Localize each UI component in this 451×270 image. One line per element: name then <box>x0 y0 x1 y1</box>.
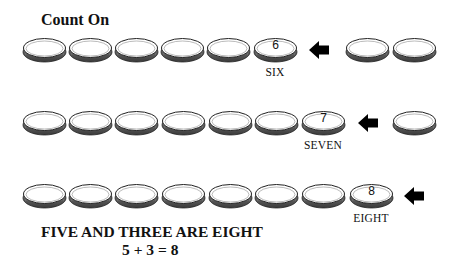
number-word-label: EIGHT <box>341 212 401 224</box>
coin-icon <box>68 183 113 209</box>
arrow-left-icon <box>309 41 329 59</box>
page-title: Count On <box>41 11 109 29</box>
count-row-1: 6 <box>0 37 451 67</box>
coin-icon <box>206 37 251 63</box>
count-row-3: 8 <box>0 183 451 213</box>
coin-icon <box>68 110 113 136</box>
coin-icon <box>345 37 390 63</box>
coin-number: 7 <box>301 111 346 125</box>
number-word-label: SIX <box>245 66 305 78</box>
highlighted-coin: 6 <box>253 37 298 63</box>
coin-icon <box>392 37 437 63</box>
coin-icon <box>22 183 67 209</box>
coin-icon <box>161 183 206 209</box>
coin-icon <box>208 110 253 136</box>
coin-number: 8 <box>349 184 394 198</box>
coin-icon <box>114 110 159 136</box>
coin-icon <box>114 37 159 63</box>
coin-icon <box>114 183 159 209</box>
coin-icon <box>392 110 437 136</box>
count-row-2: 7 <box>0 110 451 140</box>
coin-number: 6 <box>253 38 298 52</box>
coin-icon <box>301 183 346 209</box>
number-word-label: SEVEN <box>293 139 353 151</box>
coin-icon <box>22 110 67 136</box>
coin-icon <box>161 110 206 136</box>
coin-icon <box>160 37 205 63</box>
equation: 5 + 3 = 8 <box>122 241 178 259</box>
arrow-left-icon <box>358 114 378 132</box>
highlighted-coin: 8 <box>349 183 394 209</box>
coin-icon <box>208 183 253 209</box>
coin-icon <box>22 37 67 63</box>
summary-sentence: FIVE AND THREE ARE EIGHT <box>41 223 263 241</box>
coin-icon <box>68 37 113 63</box>
highlighted-coin: 7 <box>301 110 346 136</box>
coin-icon <box>254 110 299 136</box>
arrow-left-icon <box>404 187 424 205</box>
coin-icon <box>254 183 299 209</box>
